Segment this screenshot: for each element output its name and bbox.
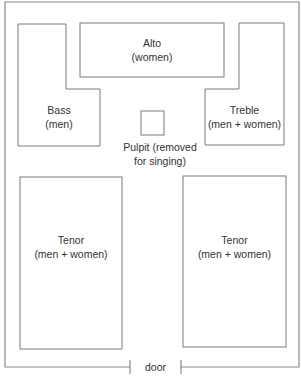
tenor-right-label: Tenor (men + women) <box>183 233 286 261</box>
alto-name: Alto <box>80 36 224 50</box>
pulpit-line2: for singing) <box>110 154 210 168</box>
tenor-right-voices: (men + women) <box>183 247 286 261</box>
tenor-left-section <box>20 177 122 349</box>
tenor-left-voices: (men + women) <box>20 247 122 261</box>
door-label: door <box>130 360 181 374</box>
alto-label: Alto (women) <box>80 36 224 64</box>
pulpit <box>141 111 164 135</box>
tenor-right-section <box>183 176 286 347</box>
bass-name: Bass <box>18 103 100 117</box>
treble-label: Treble (men + women) <box>205 103 284 131</box>
pulpit-line1: Pulpit (removed <box>110 140 210 154</box>
treble-name: Treble <box>205 103 284 117</box>
bass-label: Bass (men) <box>18 103 100 131</box>
alto-voices: (women) <box>80 50 224 64</box>
tenor-left-name: Tenor <box>20 233 122 247</box>
pulpit-label: Pulpit (removed for singing) <box>110 140 210 168</box>
tenor-right-name: Tenor <box>183 233 286 247</box>
bass-voices: (men) <box>18 117 100 131</box>
treble-voices: (men + women) <box>205 117 284 131</box>
tenor-left-label: Tenor (men + women) <box>20 233 122 261</box>
